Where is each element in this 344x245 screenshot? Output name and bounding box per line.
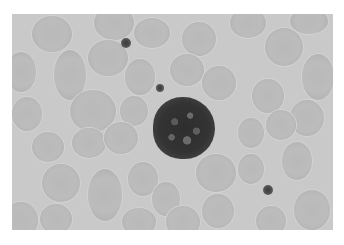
red-blood-cell — [122, 208, 156, 230]
red-blood-cell — [125, 59, 155, 95]
platelet — [263, 185, 273, 195]
red-blood-cell — [256, 206, 286, 230]
red-blood-cell — [12, 97, 42, 131]
red-blood-cell — [12, 202, 38, 230]
red-blood-cell — [182, 22, 216, 56]
red-blood-cell — [302, 54, 333, 100]
red-blood-cell — [40, 204, 72, 230]
red-blood-cell — [266, 110, 296, 140]
red-blood-cell — [196, 154, 236, 192]
red-blood-cell — [170, 54, 204, 86]
red-blood-cell — [290, 100, 324, 136]
red-blood-cell — [282, 142, 312, 180]
red-blood-cell — [104, 122, 138, 154]
red-blood-cell — [202, 66, 236, 100]
red-blood-cell — [230, 14, 266, 38]
red-blood-cell — [32, 132, 64, 162]
red-blood-cell — [32, 16, 72, 52]
red-blood-cell — [72, 128, 106, 158]
platelet — [121, 38, 131, 48]
platelet — [156, 84, 164, 92]
red-blood-cell — [134, 18, 170, 48]
red-blood-cell — [290, 14, 328, 34]
lymphocyte — [153, 97, 215, 159]
red-blood-cell — [166, 206, 200, 230]
red-blood-cell — [294, 190, 330, 230]
red-blood-cell — [265, 28, 303, 66]
red-blood-cell — [238, 118, 264, 148]
red-blood-cell — [88, 169, 122, 221]
red-blood-cell — [12, 52, 36, 92]
micrograph-image — [12, 14, 333, 230]
red-blood-cell — [42, 164, 80, 202]
red-blood-cell — [252, 79, 284, 113]
red-blood-cell — [238, 154, 264, 184]
red-blood-cell — [94, 14, 134, 40]
red-blood-cell — [202, 194, 234, 228]
